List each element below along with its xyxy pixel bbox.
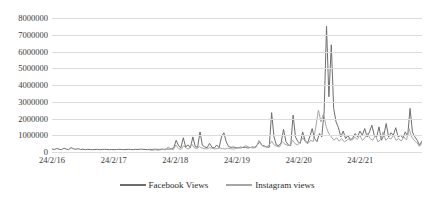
legend-item-facebook[interactable]: Facebook Views [120, 180, 209, 190]
gridline [52, 68, 422, 69]
y-axis-tick-label: 3000000 [0, 97, 48, 106]
x-axis-tick-label: 24/2/16 [39, 155, 65, 165]
chart-legend: Facebook Views Instagram views [0, 180, 434, 190]
legend-item-instagram[interactable]: Instagram views [226, 180, 314, 190]
y-axis-tick-label: 7000000 [0, 30, 48, 39]
gridline [52, 152, 422, 153]
legend-label-instagram: Instagram views [255, 180, 314, 190]
x-axis-tick-label: 24/2/21 [347, 155, 373, 165]
gridline [52, 18, 422, 19]
x-axis-tick-label: 24/2/19 [224, 155, 250, 165]
y-axis-tick-label: 5000000 [0, 64, 48, 73]
gridline [52, 102, 422, 103]
y-axis-tick-label: 4000000 [0, 81, 48, 90]
legend-swatch-instagram [226, 184, 252, 187]
gridline [52, 119, 422, 120]
gridline [52, 85, 422, 86]
x-axis-tick-label: 24/2/18 [162, 155, 188, 165]
y-axis-tick-label: 2000000 [0, 114, 48, 123]
y-axis-tick-label: 1000000 [0, 131, 48, 140]
legend-swatch-facebook [120, 184, 146, 187]
y-axis-tick-label: 8000000 [0, 14, 48, 23]
gridline [52, 52, 422, 53]
series-line-instagram [150, 110, 422, 150]
gridline [52, 35, 422, 36]
line-chart: 0100000020000003000000400000050000006000… [0, 0, 434, 204]
gridline [52, 135, 422, 136]
plot-area [52, 18, 422, 152]
x-axis: 24/2/1624/2/1724/2/1824/2/1924/2/2024/2/… [0, 155, 434, 171]
legend-label-facebook: Facebook Views [149, 180, 209, 190]
x-axis-tick-label: 24/2/17 [101, 155, 127, 165]
y-axis: 0100000020000003000000400000050000006000… [0, 0, 50, 204]
x-axis-tick-label: 24/2/20 [286, 155, 312, 165]
y-axis-tick-label: 6000000 [0, 47, 48, 56]
series-line-facebook [52, 26, 422, 149]
